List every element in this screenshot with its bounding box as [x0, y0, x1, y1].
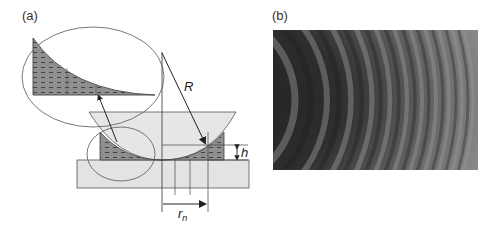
ring-radius-label: rn [178, 206, 187, 223]
diagram-canvas: R h rn [0, 0, 497, 227]
panel-a-diagram: R h rn [22, 27, 249, 223]
gap-height-label: h [241, 145, 248, 160]
radius-label: R [184, 79, 193, 94]
glass-plate [77, 160, 249, 188]
